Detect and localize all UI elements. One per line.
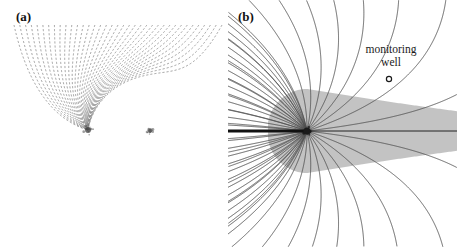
monitoring-well-marker[interactable] bbox=[386, 76, 391, 81]
panel-b: (b) monitoringwell bbox=[228, 0, 457, 247]
monitoring-well-label-line2: well bbox=[381, 56, 401, 68]
panel-a: (a) bbox=[0, 0, 229, 247]
panel-b-flowfield: monitoringwell bbox=[228, 0, 457, 247]
monitoring-well-label-line1: monitoring bbox=[365, 43, 416, 56]
secondary-well bbox=[146, 128, 155, 135]
panel-a-flowfield bbox=[0, 0, 229, 247]
figure-container: (a) (b) monitoringwell bbox=[0, 0, 457, 247]
